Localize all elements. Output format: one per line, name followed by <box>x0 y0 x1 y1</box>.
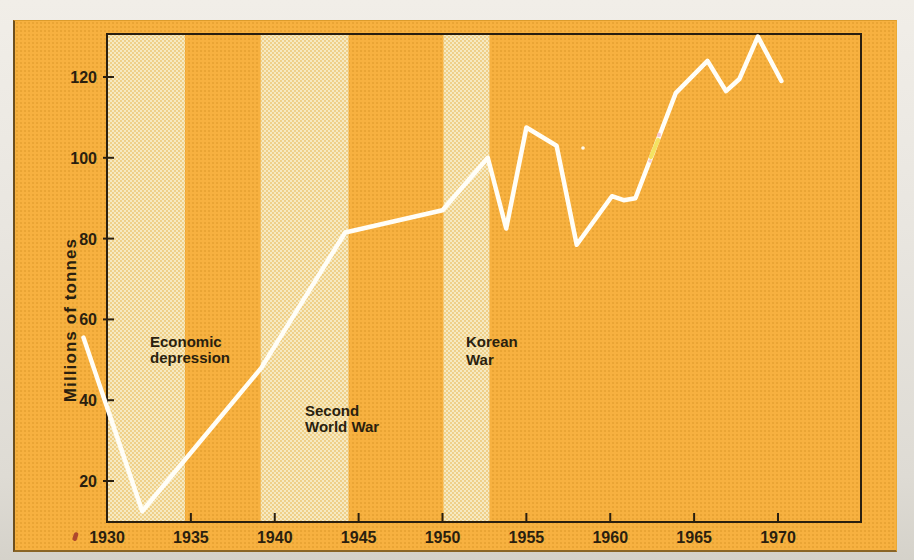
y-tick-label-40: 40 <box>79 392 97 409</box>
x-tick-label-1945: 1945 <box>341 529 377 546</box>
print-glint-pink-2 <box>648 159 652 163</box>
x-tick-label-1935: 1935 <box>173 529 209 546</box>
annotation-economic-depression-line1: Economic <box>150 333 222 350</box>
annotation-second-world-war-line2: World War <box>305 418 379 435</box>
x-tick-label-1930: 1930 <box>89 529 125 546</box>
y-tick-label-80: 80 <box>79 231 97 248</box>
print-glint-pink <box>657 133 661 137</box>
x-tick-label-1965: 1965 <box>676 529 712 546</box>
event-band-korean-war <box>444 35 490 521</box>
x-tick-label-1940: 1940 <box>257 529 293 546</box>
x-tick-label-1960: 1960 <box>592 529 628 546</box>
annotation-korean-war-line2: War <box>466 351 494 368</box>
y-tick-label-20: 20 <box>79 473 97 490</box>
print-speck <box>581 146 585 150</box>
y-tick-label-100: 100 <box>70 150 97 167</box>
x-tick-label-1950: 1950 <box>425 529 461 546</box>
annotation-economic-depression-line2: depression <box>150 349 230 366</box>
annotation-second-world-war-line1: Second <box>305 402 359 419</box>
event-band-second-world-war <box>261 35 349 521</box>
data-line <box>84 37 782 512</box>
y-tick-label-120: 120 <box>70 69 97 86</box>
book-page: Millions of tonnes 204060801001201930193… <box>0 0 914 560</box>
line-chart: 2040608010012019301935194019451950195519… <box>0 0 914 560</box>
x-tick-label-1955: 1955 <box>509 529 545 546</box>
y-tick-label-60: 60 <box>79 311 97 328</box>
print-artifact-red <box>72 532 79 542</box>
x-tick-label-1970: 1970 <box>760 529 796 546</box>
annotation-korean-war-line1: Korean <box>466 333 518 350</box>
